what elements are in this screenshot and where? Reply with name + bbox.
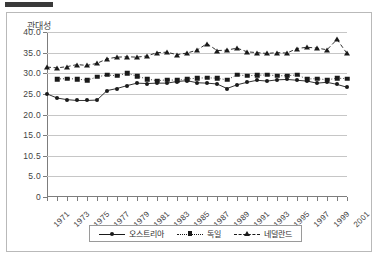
y-tick-label: 0 <box>36 192 41 202</box>
data-point-marker <box>135 81 139 85</box>
data-point-marker <box>224 48 230 53</box>
data-point-marker <box>44 65 50 70</box>
legend-item-0[interactable]: 오스트리아 <box>99 228 164 239</box>
data-point-marker <box>75 77 80 82</box>
x-tick-mark <box>247 197 248 201</box>
data-point-marker <box>105 73 110 78</box>
y-tick-label: 30.0 <box>23 68 41 78</box>
x-tick-mark <box>57 197 58 201</box>
x-tick-mark <box>307 197 308 201</box>
data-point-marker <box>175 78 180 83</box>
x-tick-mark <box>97 197 98 201</box>
data-point-marker <box>184 51 190 56</box>
x-tick-mark <box>297 197 298 201</box>
data-point-marker <box>125 71 130 76</box>
data-point-marker <box>215 76 220 81</box>
data-point-marker <box>205 81 209 85</box>
data-point-marker <box>245 80 249 84</box>
data-point-marker <box>145 82 149 86</box>
x-tick-label: 1997 <box>312 210 332 230</box>
x-tick-mark <box>87 197 88 201</box>
x-tick-mark <box>327 197 328 201</box>
series-line-2 <box>47 39 347 67</box>
legend-item-2[interactable]: 네덜란드 <box>234 228 292 239</box>
data-point-marker <box>304 45 310 50</box>
data-point-marker <box>205 76 210 81</box>
data-point-marker <box>75 98 79 102</box>
data-point-marker <box>194 48 200 53</box>
x-tick-mark <box>167 197 168 201</box>
data-point-marker <box>335 76 340 81</box>
data-point-marker <box>45 92 49 96</box>
legend-item-1[interactable]: 독일 <box>177 228 221 239</box>
data-point-marker <box>284 51 290 56</box>
circle-marker-icon <box>110 232 114 236</box>
x-tick-mark <box>127 197 128 201</box>
data-point-marker <box>204 41 210 46</box>
data-point-marker <box>335 82 339 86</box>
x-tick-mark <box>67 197 68 201</box>
data-point-marker <box>264 51 270 56</box>
data-point-marker <box>154 50 160 55</box>
data-point-marker <box>295 73 300 78</box>
data-point-marker <box>134 55 140 60</box>
data-point-marker <box>54 65 60 70</box>
data-point-marker <box>275 73 280 78</box>
data-point-marker <box>85 78 90 83</box>
data-point-marker <box>255 73 260 78</box>
data-point-marker <box>145 77 150 82</box>
data-point-marker <box>165 78 170 83</box>
legend-label: 오스트리아 <box>129 228 164 239</box>
x-tick-label: 2001 <box>352 210 372 230</box>
data-point-marker <box>95 75 100 80</box>
triangle-marker-icon <box>244 231 250 236</box>
data-point-marker <box>214 48 220 53</box>
series-line-1 <box>57 73 347 80</box>
data-point-marker <box>345 76 350 81</box>
data-point-marker <box>305 77 310 82</box>
x-tick-mark <box>267 197 268 201</box>
data-point-marker <box>125 84 129 88</box>
data-point-marker <box>274 50 280 55</box>
data-point-marker <box>235 83 239 87</box>
legend-label: 독일 <box>207 228 221 239</box>
data-point-marker <box>244 49 250 54</box>
y-tick-label: 20.0 <box>23 110 41 120</box>
legend-swatch <box>234 230 260 237</box>
x-tick-mark <box>117 197 118 201</box>
data-point-marker <box>185 77 190 82</box>
x-tick-mark <box>177 197 178 201</box>
x-tick-mark <box>47 197 48 201</box>
series-lines <box>47 32 347 197</box>
data-point-marker <box>164 50 170 55</box>
x-tick-mark <box>207 197 208 201</box>
square-marker-icon <box>188 231 193 236</box>
data-point-marker <box>85 98 89 102</box>
x-tick-mark <box>147 197 148 201</box>
data-point-marker <box>84 63 90 68</box>
data-point-marker <box>95 98 99 102</box>
data-point-marker <box>315 81 319 85</box>
data-point-marker <box>265 73 270 78</box>
data-point-marker <box>215 82 219 86</box>
x-tick-mark <box>137 197 138 201</box>
data-point-marker <box>324 47 330 52</box>
data-point-marker <box>195 76 200 81</box>
data-point-marker <box>115 87 119 91</box>
x-tick-label: 1971 <box>52 210 72 230</box>
data-point-marker <box>55 96 59 100</box>
x-tick-mark <box>217 197 218 201</box>
x-tick-mark <box>197 197 198 201</box>
x-tick-mark <box>257 197 258 201</box>
data-point-marker <box>124 54 130 59</box>
chart-legend: 오스트리아독일네덜란드 <box>89 225 302 242</box>
x-tick-mark <box>287 197 288 201</box>
data-point-marker <box>105 89 109 93</box>
y-tick-label: 5.0 <box>28 171 41 181</box>
x-tick-mark <box>347 197 348 201</box>
data-point-marker <box>255 78 259 82</box>
data-point-marker <box>285 77 289 81</box>
data-point-marker <box>294 46 300 51</box>
data-point-marker <box>114 55 120 60</box>
x-tick-mark <box>187 197 188 201</box>
